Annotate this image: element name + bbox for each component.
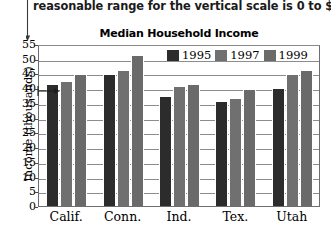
y-tick-label: 25 bbox=[2, 128, 36, 138]
bar-1999-calif bbox=[74, 75, 87, 206]
bar-1995-tex bbox=[215, 102, 228, 206]
x-tick-label: Calif. bbox=[50, 209, 83, 224]
x-tick-label: Ind. bbox=[167, 209, 192, 224]
x-tick-label: Conn. bbox=[104, 209, 141, 224]
legend-label-1995: 1995 bbox=[182, 50, 211, 61]
bar-1997-tex bbox=[229, 99, 242, 207]
legend-entry-1999: 1999 bbox=[264, 50, 308, 61]
legend-label-1997: 1997 bbox=[230, 50, 259, 61]
legend-entry-1995: 1995 bbox=[167, 50, 211, 61]
bar-group-conn bbox=[103, 46, 144, 206]
instruction-text: reasonable range for the vertical scale … bbox=[33, 0, 329, 14]
down-arrow-leader-icon bbox=[26, 0, 35, 42]
bar-1995-conn bbox=[103, 75, 116, 206]
y-tick-label: 5 bbox=[2, 187, 36, 197]
bar-1999-tex bbox=[243, 90, 256, 206]
bar-1995-utah bbox=[272, 89, 285, 206]
bar-1999-utah bbox=[300, 71, 313, 206]
y-tick-label: 30 bbox=[2, 114, 36, 124]
legend-entry-1997: 1997 bbox=[215, 50, 259, 61]
bar-1997-calif bbox=[60, 82, 73, 206]
bar-group-tex bbox=[215, 46, 256, 206]
y-tick-mark bbox=[35, 207, 38, 208]
bar-group-calif bbox=[46, 46, 87, 206]
bar-group-utah bbox=[272, 46, 313, 206]
x-tick-label: Utah bbox=[276, 209, 307, 224]
bar-1997-conn bbox=[117, 71, 130, 206]
bar-1995-ind bbox=[159, 97, 172, 206]
y-tick-label: 40 bbox=[2, 84, 36, 94]
bar-1995-calif bbox=[46, 85, 59, 206]
right-arrow-pointer-icon bbox=[37, 82, 61, 94]
x-tick-label: Tex. bbox=[222, 209, 248, 224]
y-tick-label: 35 bbox=[2, 99, 36, 109]
y-tick-label: 50 bbox=[2, 55, 36, 65]
y-tick-label: 0 bbox=[2, 202, 36, 212]
chart-legend: 199519971999 bbox=[167, 47, 308, 63]
legend-swatch-1999 bbox=[264, 50, 276, 61]
y-axis-ticks: 0510152025303540455055 bbox=[0, 45, 36, 207]
legend-label-1999: 1999 bbox=[279, 50, 308, 61]
chart-title: Median Household Income bbox=[38, 27, 320, 40]
bar-group-ind bbox=[159, 46, 200, 206]
bar-1999-conn bbox=[131, 56, 144, 206]
x-axis-labels: Calif.Conn.Ind.Tex.Utah bbox=[38, 209, 320, 229]
legend-swatch-1997 bbox=[215, 50, 227, 61]
y-tick-label: 15 bbox=[2, 158, 36, 168]
y-tick-label: 20 bbox=[2, 143, 36, 153]
plot-inner bbox=[39, 46, 319, 206]
y-tick-label: 10 bbox=[2, 173, 36, 183]
y-tick-label: 55 bbox=[2, 40, 36, 50]
bar-1997-utah bbox=[286, 75, 299, 206]
bar-1999-ind bbox=[187, 85, 200, 206]
bar-1997-ind bbox=[173, 87, 186, 206]
plot-area bbox=[38, 45, 320, 207]
legend-swatch-1995 bbox=[167, 50, 179, 61]
y-tick-label: 45 bbox=[2, 69, 36, 79]
